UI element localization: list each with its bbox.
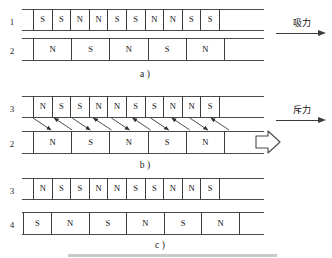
row-label-c4: 4 (6, 221, 18, 230)
pole-cell: N (186, 38, 225, 60)
pole-cell: N (182, 96, 202, 117)
pole-cell: S (52, 9, 72, 30)
pole-cell: S (70, 96, 90, 117)
arrow-head-icon (318, 117, 326, 123)
rail-a1-bottom (22, 30, 264, 31)
force-arrow-attraction (274, 30, 330, 38)
pole-cell: N (182, 178, 202, 199)
pole-cell: N (33, 178, 53, 199)
pole-cell: S (126, 178, 146, 199)
pole-cell: S (145, 178, 165, 199)
pole-cell: N (107, 96, 127, 117)
pole-cell: S (148, 38, 187, 60)
rail-c4-bottom (22, 234, 264, 235)
pole-cell: N (109, 38, 148, 60)
pole-cell: S (164, 212, 203, 234)
pole-cell: N (89, 9, 109, 30)
row-label-b3: 3 (6, 105, 18, 114)
pole-cell: N (33, 38, 72, 60)
magnet-strip-a2: N S N S N (33, 38, 229, 60)
rail-b2-bottom (22, 153, 264, 154)
rail-b3-bottom (22, 117, 264, 118)
pole-cell: S (107, 9, 127, 30)
magnet-strip-b2: N S N S N (33, 131, 229, 153)
arrow-shaft (276, 120, 320, 121)
figure-canvas: 1 S S N N S S N N S S 2 N S N S N 吸力 a )… (0, 0, 332, 258)
force-annotation-repulsion: 斥力 (274, 105, 330, 125)
row-label-c3: 3 (6, 187, 18, 196)
pole-cell: S (71, 38, 110, 60)
pole-cell: N (70, 9, 90, 30)
pole-cell: N (89, 96, 109, 117)
pole-cell: N (186, 131, 225, 153)
pole-cell: S (70, 178, 90, 199)
magnet-strip-a1: S S N N S S N N S S (33, 9, 229, 30)
pole-cell: N (145, 9, 165, 30)
panel-caption-c: c ) (140, 240, 180, 250)
pole-cell: S (200, 178, 220, 199)
pole-cell: S (52, 178, 72, 199)
force-label-repulsion: 斥力 (274, 105, 330, 116)
row-label-a1: 1 (6, 18, 18, 27)
pole-cell: N (107, 178, 127, 199)
panel-caption-b: b ) (125, 160, 165, 170)
panel-caption-a: a ) (125, 69, 165, 79)
pole-cell: S (200, 9, 220, 30)
rail-c3-bottom (22, 199, 264, 200)
pole-cell: N (201, 212, 240, 234)
pole-cell: S (145, 96, 165, 117)
pole-cell: N (33, 131, 72, 153)
force-label-attraction: 吸力 (274, 18, 330, 29)
bottom-gray-bar (68, 254, 277, 257)
pole-cell: S (52, 96, 72, 117)
pole-cell: S (182, 9, 202, 30)
rail-a2-bottom (22, 60, 264, 61)
force-arrow-repulsion (274, 117, 330, 125)
pole-cell: S (126, 9, 146, 30)
row-label-b2: 2 (6, 140, 18, 149)
pole-cell: S (126, 96, 146, 117)
pole-cell: N (33, 96, 53, 117)
magnet-strip-b3: N S S N N S S N N S (33, 96, 229, 117)
pole-cell: N (163, 9, 183, 30)
pole-cell: N (51, 212, 90, 234)
pole-cell: N (109, 131, 148, 153)
pole-cell: N (126, 212, 165, 234)
force-annotation-attraction: 吸力 (274, 18, 330, 38)
arrow-head-icon (318, 30, 326, 36)
magnet-strip-c4: S N S N S N (23, 212, 239, 234)
magnet-strip-c3: N S S N N S S N N S (33, 178, 229, 199)
pole-cell: S (89, 212, 128, 234)
pole-cell: N (89, 178, 109, 199)
arrow-shaft (276, 33, 320, 34)
row-label-a2: 2 (6, 47, 18, 56)
pole-cell: N (163, 178, 183, 199)
pole-cell: S (200, 96, 220, 117)
pole-cell: S (148, 131, 187, 153)
pole-cell: S (71, 131, 110, 153)
pole-cell: S (33, 9, 53, 30)
pole-cell: S (23, 212, 52, 234)
pole-cell: N (163, 96, 183, 117)
